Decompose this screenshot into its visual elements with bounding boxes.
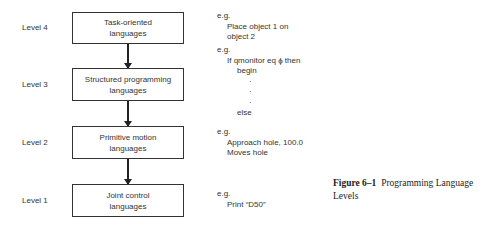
- arrow-down-icon: [127, 101, 129, 126]
- level-3-label: Level 3: [22, 80, 48, 89]
- example-line: begin: [217, 66, 300, 77]
- example-line: ·: [217, 77, 300, 88]
- level-4-label: Level 4: [22, 23, 48, 32]
- example-level-1: e.g. Print “D50”: [217, 189, 266, 210]
- example-line: object 2: [217, 32, 288, 43]
- level-1-label: Level 1: [22, 196, 48, 205]
- example-level-2: e.g. Approach hole, 100.0 Moves hole: [217, 127, 303, 159]
- primitive-motion-languages-box: Primitive motionlanguages: [72, 126, 184, 159]
- example-line: Print “D50”: [217, 200, 266, 211]
- example-level-3: e.g. If qmonitor eq ϕ then begin · · · e…: [217, 45, 300, 119]
- example-level-4: e.g. Place object 1 on object 2: [217, 11, 288, 43]
- example-prefix: e.g.: [217, 45, 300, 56]
- example-line: ·: [217, 98, 300, 109]
- figure-number: Figure 6–1: [333, 178, 376, 188]
- task-oriented-languages-box: Task-orientedlanguages: [72, 12, 184, 44]
- example-line: ·: [217, 87, 300, 98]
- box-line: languages: [85, 85, 171, 96]
- example-prefix: e.g.: [217, 189, 266, 200]
- level-2-label: Level 2: [22, 138, 48, 147]
- box-line: Joint control: [106, 190, 149, 201]
- box-line: languages: [106, 201, 149, 212]
- arrow-down-icon: [127, 44, 129, 68]
- example-line: Moves hole: [217, 148, 303, 159]
- example-line: else: [217, 108, 300, 119]
- example-prefix: e.g.: [217, 11, 288, 22]
- box-line: Primitive motion: [100, 132, 157, 143]
- example-line: Approach hole, 100.0: [217, 138, 303, 149]
- example-line: Place object 1 on: [217, 22, 288, 33]
- example-line: If qmonitor eq ϕ then: [217, 56, 300, 67]
- box-line: Structured programming: [85, 74, 171, 85]
- box-line: Task-oriented: [104, 17, 152, 28]
- example-prefix: e.g.: [217, 127, 303, 138]
- figure-caption: Figure 6–1 Programming Language Levels: [333, 177, 483, 203]
- box-line: languages: [100, 143, 157, 154]
- arrow-down-icon: [127, 159, 129, 184]
- box-line: languages: [104, 28, 152, 39]
- joint-control-languages-box: Joint controllanguages: [72, 184, 184, 217]
- structured-programming-languages-box: Structured programminglanguages: [72, 68, 184, 101]
